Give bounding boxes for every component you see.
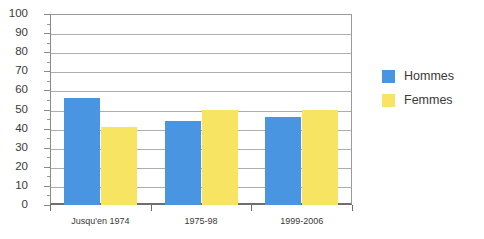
gridline (51, 72, 351, 73)
y-axis-minor-tick (47, 176, 50, 177)
bar-femmes-3 (302, 110, 338, 206)
y-axis-minor-tick (47, 81, 50, 82)
legend-item-femmes[interactable]: Femmes (382, 88, 454, 112)
x-axis-label-3: 1999-2006 (251, 216, 352, 226)
y-axis-tick-mark (44, 90, 50, 91)
y-axis-tick-mark (44, 33, 50, 34)
x-axis-tick-mark (251, 205, 252, 211)
x-axis-label-1: Jusqu'en 1974 (50, 216, 151, 226)
y-axis-minor-tick (47, 195, 50, 196)
y-axis-tick-mark (44, 148, 50, 149)
y-axis-tick-label: 80 (0, 46, 28, 57)
y-axis-minor-tick (47, 100, 50, 101)
gridline (51, 53, 351, 54)
y-axis-tick-mark (44, 71, 50, 72)
legend-item-hommes[interactable]: Hommes (382, 64, 454, 88)
bar-femmes-2 (202, 110, 238, 206)
bar-hommes-1 (64, 98, 100, 205)
legend-label: Femmes (404, 94, 453, 107)
y-axis-minor-tick (47, 138, 50, 139)
y-axis-tick-mark (44, 110, 50, 111)
x-axis-tick-mark (352, 205, 353, 211)
y-axis-tick-label: 100 (0, 8, 28, 19)
y-axis-tick-mark (44, 167, 50, 168)
gridline (51, 91, 351, 92)
chart-legend: HommesFemmes (382, 64, 454, 112)
y-axis-tick-label: 40 (0, 123, 28, 134)
y-axis-tick-label: 70 (0, 65, 28, 76)
bar-chart: 1009080706050403020100 Jusqu'en 19741975… (0, 0, 484, 239)
y-axis-minor-tick (47, 119, 50, 120)
y-axis-tick-mark (44, 52, 50, 53)
y-axis-tick-mark (44, 186, 50, 187)
legend-label: Hommes (404, 70, 454, 83)
gridline (51, 34, 351, 35)
y-axis-tick-mark (44, 14, 50, 15)
x-axis-tick-mark (50, 205, 51, 211)
x-axis-tick-mark (151, 205, 152, 211)
y-axis-minor-tick (47, 24, 50, 25)
y-axis-tick-label: 20 (0, 161, 28, 172)
y-axis-tick-label: 90 (0, 27, 28, 38)
y-axis-minor-tick (47, 157, 50, 158)
y-axis-tick-label: 60 (0, 84, 28, 95)
y-axis-tick-label: 30 (0, 142, 28, 153)
y-axis-tick-label: 50 (0, 104, 28, 115)
y-axis-tick-label: 0 (0, 199, 28, 210)
bar-hommes-2 (165, 121, 201, 205)
bar-hommes-3 (265, 117, 301, 205)
y-axis-tick-label: 10 (0, 180, 28, 191)
y-axis-minor-tick (47, 43, 50, 44)
y-axis-minor-tick (47, 62, 50, 63)
legend-swatch-icon-hommes (382, 70, 395, 83)
x-axis-label-2: 1975-98 (151, 216, 252, 226)
bar-femmes-1 (101, 127, 137, 205)
legend-swatch-icon-femmes (382, 94, 395, 107)
y-axis-tick-mark (44, 129, 50, 130)
